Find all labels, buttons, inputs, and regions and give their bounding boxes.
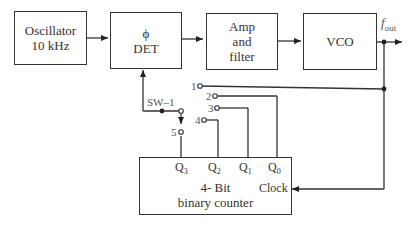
- oscillator-label: Oscillator: [25, 23, 76, 38]
- output-q0: Q0: [268, 160, 281, 176]
- vco-label: VCO: [326, 34, 353, 49]
- vco-block: VCO: [303, 13, 377, 70]
- output-q1: Q1: [239, 160, 252, 176]
- clock-input-label: Clock: [259, 181, 288, 196]
- filter-label: filter: [229, 49, 254, 64]
- and-label: and: [233, 34, 252, 49]
- switch-position-1: 1: [191, 80, 197, 92]
- amp-filter-block: Amp and filter: [206, 13, 278, 70]
- det-label: DET: [133, 41, 158, 56]
- fout-label: fout: [381, 15, 396, 33]
- phi-symbol: ϕ: [143, 26, 150, 41]
- switch-position-3: 3: [208, 102, 214, 114]
- output-q2: Q2: [208, 160, 221, 176]
- switch-label: SW–1: [147, 96, 175, 108]
- phase-detector-block: ϕ DET: [110, 12, 182, 69]
- output-q3: Q3: [175, 160, 188, 176]
- oscillator-frequency: 10 kHz: [32, 38, 70, 53]
- amp-label: Amp: [229, 19, 255, 34]
- counter-label-2: binary counter: [178, 195, 253, 210]
- oscillator-block: Oscillator 10 kHz: [14, 11, 87, 65]
- switch-position-2: 2: [206, 90, 212, 102]
- counter-label-1: 4- Bit: [201, 180, 231, 195]
- switch-position-5: 5: [171, 126, 177, 138]
- switch-position-4: 4: [195, 114, 201, 126]
